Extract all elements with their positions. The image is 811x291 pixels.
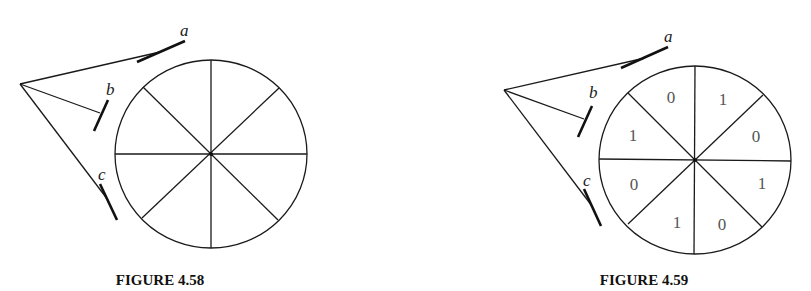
- sensor-line-a: [20, 52, 160, 84]
- figure-caption: FIGURE 4.58: [116, 272, 204, 288]
- sensor-fan: [504, 58, 645, 206]
- sensor-line-c: [20, 84, 108, 200]
- diagram-canvas: a b c FIGURE 4.58 a b c: [0, 0, 811, 291]
- sector-digit-left-lower: 0: [630, 175, 639, 194]
- sector-digit-bottom-right: 0: [718, 215, 727, 234]
- disk-center: [209, 152, 213, 156]
- sensor-line-c: [504, 90, 592, 206]
- label-b: b: [106, 80, 115, 99]
- label-a: a: [180, 21, 189, 40]
- sensor-fan: [20, 52, 160, 200]
- sensor-bar-b: [94, 100, 108, 131]
- label-a: a: [664, 27, 673, 46]
- sector-digit-top-left: 0: [667, 88, 676, 107]
- sector-digit-right-lower: 1: [758, 174, 767, 193]
- sensor-bar-c: [100, 184, 117, 220]
- figure-4-59: a b c 0 1 0 1 0 1 0 1 FIGURE 4.59: [504, 27, 791, 288]
- figure-caption: FIGURE 4.59: [600, 272, 688, 288]
- sensor-line-b: [504, 90, 584, 119]
- sensor-bar-a: [137, 41, 185, 62]
- sensor-bar-a: [621, 47, 668, 68]
- sector-digit-left-upper: 1: [629, 126, 638, 145]
- label-b: b: [589, 83, 598, 102]
- code-disk: 0 1 0 1 0 1 0 1: [599, 66, 791, 254]
- sensor-line-a: [504, 58, 645, 90]
- label-c: c: [583, 171, 591, 190]
- sensor-bar-b: [578, 106, 592, 137]
- sensor-bar-c: [584, 189, 601, 226]
- sector-digit-bottom-left: 1: [673, 213, 682, 232]
- code-disk: [115, 60, 307, 248]
- sector-digit-top-right: 1: [719, 90, 728, 109]
- sector-digit-right-upper: 0: [752, 127, 761, 146]
- label-c: c: [98, 165, 106, 184]
- sensor-line-b: [20, 84, 100, 113]
- disk-center: [693, 158, 697, 162]
- figure-4-58: a b c FIGURE 4.58: [20, 21, 307, 288]
